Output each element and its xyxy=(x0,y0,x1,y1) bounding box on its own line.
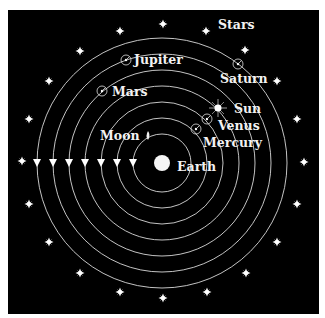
star-icon xyxy=(45,238,54,247)
star-icon xyxy=(293,115,302,124)
star-icon xyxy=(159,294,168,303)
earth-icon xyxy=(154,155,170,171)
star-icon xyxy=(25,200,34,209)
arrow-icon xyxy=(97,159,105,167)
star-icon xyxy=(25,115,34,124)
venus-epicycle-icon xyxy=(202,114,212,124)
arrow-icon xyxy=(33,159,41,167)
label-sun: Sun xyxy=(234,101,261,116)
star-icon xyxy=(241,46,250,55)
star-icon xyxy=(116,27,125,36)
direction-arrows xyxy=(33,159,137,167)
mercury-epicycle-icon xyxy=(191,124,201,134)
arrow-icon xyxy=(129,159,137,167)
star-icon xyxy=(159,20,168,29)
label-mercury: Mercury xyxy=(203,135,263,150)
mars-epicycle-icon xyxy=(97,86,107,96)
label-earth: Earth xyxy=(177,159,216,174)
star-icon xyxy=(273,77,282,86)
star-icon xyxy=(76,47,85,56)
star-icon xyxy=(45,77,54,86)
arrow-icon xyxy=(49,159,57,167)
star-icon xyxy=(293,200,302,209)
sun-icon xyxy=(209,99,227,117)
label-mars: Mars xyxy=(112,84,148,99)
arrow-icon xyxy=(65,159,73,167)
star-icon xyxy=(76,269,85,278)
jupiter-epicycle-icon xyxy=(121,55,131,65)
star-icon xyxy=(273,238,282,247)
label-moon: Moon xyxy=(100,128,140,143)
label-jupiter: Jupiter xyxy=(133,52,183,67)
arrow-icon xyxy=(81,159,89,167)
star-icon xyxy=(242,269,251,278)
star-icon xyxy=(300,158,309,167)
star-icon xyxy=(203,288,212,297)
saturn-epicycle-icon xyxy=(233,59,243,69)
label-stars: Stars xyxy=(218,17,255,32)
geocentric-diagram: Stars Jupiter Saturn Mars Sun Venus Moon… xyxy=(0,0,325,318)
label-saturn: Saturn xyxy=(220,71,268,86)
label-venus: Venus xyxy=(217,118,260,133)
star-icon xyxy=(18,157,27,166)
star-icon xyxy=(116,288,125,297)
star-icon xyxy=(202,27,211,36)
arrow-icon xyxy=(113,159,121,167)
